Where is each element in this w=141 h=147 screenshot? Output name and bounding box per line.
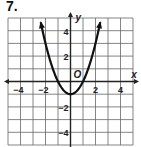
svg-text:−4: −4: [13, 85, 23, 95]
svg-text:−2: −2: [58, 103, 68, 113]
coordinate-graph: −4−22442−2−4xyO: [0, 0, 141, 147]
svg-text:2: 2: [63, 52, 68, 62]
svg-text:4: 4: [118, 85, 123, 95]
svg-text:−4: −4: [58, 128, 68, 138]
svg-text:x: x: [130, 69, 137, 80]
svg-text:−2: −2: [38, 85, 48, 95]
svg-text:y: y: [75, 12, 82, 23]
svg-text:O: O: [74, 69, 82, 80]
svg-text:4: 4: [63, 27, 68, 37]
axes: [4, 12, 139, 147]
svg-text:2: 2: [93, 85, 98, 95]
